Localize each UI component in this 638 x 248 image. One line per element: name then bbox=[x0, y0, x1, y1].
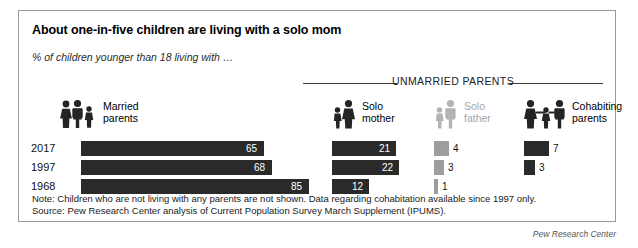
chart-figure: About one-in-five children are living wi… bbox=[18, 10, 616, 222]
table-row: 1968 85 12 1 bbox=[19, 179, 615, 194]
bar-value-solofather-1997: 3 bbox=[448, 161, 454, 174]
bar-value-solofather-2017: 4 bbox=[453, 142, 459, 155]
label-line-2: father bbox=[464, 112, 491, 124]
bar-value-cohabiting-1997: 3 bbox=[539, 161, 545, 174]
chart-source: Source: Pew Research Center analysis of … bbox=[32, 205, 446, 216]
row-year-label: 2017 bbox=[31, 142, 73, 154]
bar-solofather-2017 bbox=[434, 141, 449, 156]
bar-married-1997 bbox=[81, 160, 272, 175]
label-line-1: Solo bbox=[362, 100, 383, 112]
table-row: 2017 65 21 4 7 bbox=[19, 141, 615, 156]
label-line-1: Cohabiting bbox=[572, 100, 622, 112]
category-label-cohabiting-parents: Cohabiting parents bbox=[572, 101, 622, 124]
label-line-1: Solo bbox=[464, 100, 485, 112]
chart-subtitle: % of children younger than 18 living wit… bbox=[32, 51, 233, 63]
cohabiting-parents-icon bbox=[524, 99, 570, 129]
attribution-label: Pew Research Center bbox=[533, 229, 616, 239]
group-header-label: UNMARRIED PARENTS bbox=[303, 75, 603, 87]
category-label-solo-father: Solo father bbox=[464, 101, 491, 124]
row-year-label: 1968 bbox=[31, 180, 73, 192]
bar-solofather-1968 bbox=[434, 179, 438, 194]
bar-value-married-2017: 65 bbox=[246, 142, 257, 155]
label-line-1: Married bbox=[103, 100, 139, 112]
bar-value-solomother-1997: 22 bbox=[382, 161, 393, 174]
bar-cohabiting-2017 bbox=[524, 141, 549, 156]
bar-value-solofather-1968: 1 bbox=[442, 180, 448, 193]
married-parents-icon bbox=[59, 99, 101, 129]
page-title: About one-in-five children are living wi… bbox=[32, 23, 341, 37]
row-year-label: 1997 bbox=[31, 161, 73, 173]
solo-mother-icon bbox=[332, 99, 360, 129]
bar-married-2017 bbox=[81, 141, 264, 156]
bar-value-married-1997: 68 bbox=[254, 161, 265, 174]
solo-father-icon bbox=[434, 99, 462, 129]
bar-value-solomother-1968: 12 bbox=[352, 180, 363, 193]
category-label-solo-mother: Solo mother bbox=[362, 101, 395, 124]
bar-value-cohabiting-2017: 7 bbox=[553, 142, 559, 155]
bar-solofather-1997 bbox=[434, 160, 444, 175]
unmarried-parents-bracket: UNMARRIED PARENTS bbox=[303, 75, 603, 91]
bar-cohabiting-1997 bbox=[524, 160, 535, 175]
bar-solomother-1968 bbox=[332, 179, 369, 194]
bar-value-married-1968: 85 bbox=[291, 180, 302, 193]
category-label-married-parents: Married parents bbox=[103, 101, 139, 124]
table-row: 1997 68 22 3 3 bbox=[19, 160, 615, 175]
bar-married-1968 bbox=[81, 179, 309, 194]
bar-value-solomother-2017: 21 bbox=[379, 142, 390, 155]
bracket-line-right bbox=[509, 83, 603, 84]
label-line-2: mother bbox=[362, 112, 395, 124]
label-line-2: parents bbox=[103, 112, 138, 124]
chart-note: Note: Children who are not living with a… bbox=[32, 193, 536, 204]
label-line-2: parents bbox=[572, 112, 607, 124]
